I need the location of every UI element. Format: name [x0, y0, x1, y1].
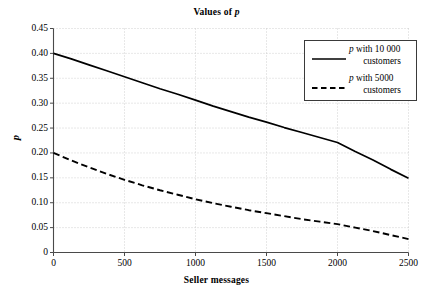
- x-tick-label: 0: [31, 258, 77, 268]
- y-tick-label: 0.05: [14, 222, 48, 232]
- y-tick-label: 0.10: [14, 197, 48, 207]
- legend-box: p with 10 000customersp with 5000custome…: [304, 40, 417, 101]
- legend-label: p with 10 000customers: [349, 44, 415, 67]
- series-line-2: [54, 153, 409, 239]
- legend-line-swatch: [311, 78, 347, 86]
- legend-label-rest: with 10 000: [354, 44, 401, 54]
- legend-label: p with 5000customers: [349, 73, 415, 96]
- legend-label-line2: customers: [349, 56, 415, 68]
- x-tick-label: 1000: [173, 258, 219, 268]
- chart-figure: Values of p p Seller messages p with 10 …: [0, 0, 433, 301]
- y-tick-label: 0.40: [14, 48, 48, 58]
- legend-line-swatch: [311, 49, 347, 57]
- y-tick-label: 0.30: [14, 98, 48, 108]
- y-tick-label: 0.15: [14, 172, 48, 182]
- legend-label-rest: with 5000: [354, 73, 394, 83]
- legend-item[interactable]: p with 5000customers: [305, 73, 418, 101]
- legend-label-line2: customers: [349, 85, 415, 97]
- legend-item[interactable]: p with 10 000customers: [305, 44, 418, 72]
- y-tick-label: 0.20: [14, 147, 48, 157]
- x-tick-label: 500: [102, 258, 148, 268]
- x-tick-label: 2000: [315, 258, 361, 268]
- y-tick-label: 0.45: [14, 23, 48, 33]
- y-tick-label: 0.25: [14, 123, 48, 133]
- y-tick-label: 0: [14, 247, 48, 257]
- x-tick-label: 2500: [386, 258, 432, 268]
- x-tick-label: 1500: [244, 258, 290, 268]
- y-tick-label: 0.35: [14, 73, 48, 83]
- x-axis-label: Seller messages: [0, 275, 433, 285]
